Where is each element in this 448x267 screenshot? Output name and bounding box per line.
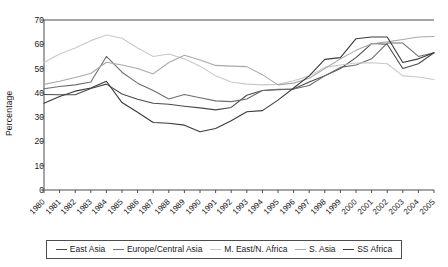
series-line-m-east-n-africa xyxy=(44,35,434,85)
legend-line-swatch-icon xyxy=(210,249,221,250)
chart-legend: East AsiaEurope/Central AsiaM. East/N. A… xyxy=(46,240,402,259)
legend-line-swatch-icon xyxy=(295,249,306,250)
legend-label: Europe/Central Asia xyxy=(127,245,203,254)
legend-item-europe-central-asia[interactable]: Europe/Central Asia xyxy=(113,245,203,254)
series-line-s-asia xyxy=(44,37,434,85)
series-line-ss-africa xyxy=(44,37,434,132)
legend-item-ss-africa[interactable]: SS Africa xyxy=(343,245,392,254)
legend-line-swatch-icon xyxy=(56,249,67,250)
legend-line-swatch-icon xyxy=(343,249,354,250)
legend-item-m-east-n-africa[interactable]: M. East/N. Africa xyxy=(210,245,287,254)
legend-label: S. Asia xyxy=(309,245,335,254)
legend-label: SS Africa xyxy=(357,245,392,254)
legend-item-s-asia[interactable]: S. Asia xyxy=(295,245,335,254)
plot-area xyxy=(0,0,448,267)
legend-label: East Asia xyxy=(70,245,105,254)
series-line-europe-central-asia xyxy=(44,43,434,102)
line-chart: Percentage 010203040506070 1980198119821… xyxy=(0,0,448,267)
legend-item-east-asia[interactable]: East Asia xyxy=(56,245,105,254)
legend-line-swatch-icon xyxy=(113,249,124,250)
legend-label: M. East/N. Africa xyxy=(224,245,287,254)
